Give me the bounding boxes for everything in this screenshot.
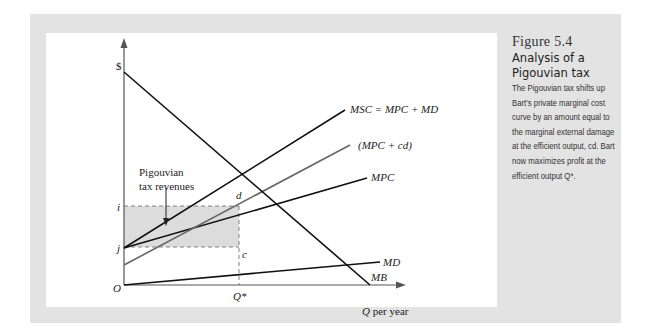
mpc-label: MPC [370, 171, 395, 183]
md-label: MD [382, 256, 400, 268]
y-axis-label: $ [116, 60, 122, 72]
x-axis-q: Q [362, 305, 370, 317]
tax-revenue-label-2: tax revenues [139, 180, 194, 192]
origin-label: O [113, 282, 121, 294]
mb-curve [124, 72, 370, 285]
mpc-cd-label: (MPC + cd) [358, 139, 412, 152]
md-curve [124, 262, 380, 285]
figure-caption: Figure 5.4 Analysis of a Pigouvian tax T… [512, 34, 622, 183]
i-label: i [117, 201, 120, 213]
d-label: d [236, 189, 242, 201]
figure-title-line1: Analysis of a [512, 51, 622, 65]
tax-revenue-label-1: Pigouvian [139, 166, 184, 178]
figure-title-line2: Pigouvian tax [512, 66, 622, 80]
figure-number: Figure 5.4 [512, 34, 622, 50]
x-axis-label: Q per year [362, 305, 409, 317]
x-axis-arrow-icon [396, 282, 406, 289]
msc-label: MSC = MPC + MD [349, 103, 438, 115]
mb-label: MB [370, 271, 387, 283]
q-star-label: Q* [233, 290, 247, 302]
y-axis-arrow-icon [121, 38, 128, 48]
j-label: j [115, 242, 120, 254]
c-label: c [242, 248, 247, 260]
figure-description: The Pigouvian tax shifts up Bart's priva… [512, 81, 622, 183]
x-axis-unit: per year [370, 305, 409, 317]
